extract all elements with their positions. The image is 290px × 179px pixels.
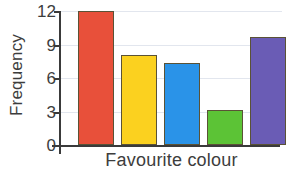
y-axis-tick-label: 9	[34, 36, 56, 53]
y-axis-title-text: Frequency	[7, 34, 27, 116]
x-axis-title: Favourite colour	[59, 150, 284, 171]
bar-blue	[164, 63, 200, 145]
y-axis-tick	[54, 112, 61, 114]
y-axis-tick	[54, 11, 61, 13]
y-axis-tick	[54, 45, 61, 47]
y-axis-tick	[54, 145, 61, 147]
y-axis-title: Frequency	[0, 0, 34, 150]
y-axis-line	[59, 11, 61, 149]
plot-area	[59, 8, 284, 149]
y-axis-tick-label: 6	[34, 70, 56, 87]
y-axis-tick	[54, 78, 61, 80]
bar-red	[78, 11, 114, 145]
y-axis-tick-label: 12	[34, 3, 56, 20]
bar-purple	[250, 37, 286, 145]
y-axis-tick-labels: 036912	[31, 0, 56, 179]
bar-chart-figure: Frequency 036912 Favourite colour	[0, 0, 290, 179]
x-axis-line	[52, 145, 280, 147]
bar-green	[207, 110, 243, 145]
y-axis-tick-label: 3	[34, 103, 56, 120]
bar-yellow	[121, 55, 157, 145]
